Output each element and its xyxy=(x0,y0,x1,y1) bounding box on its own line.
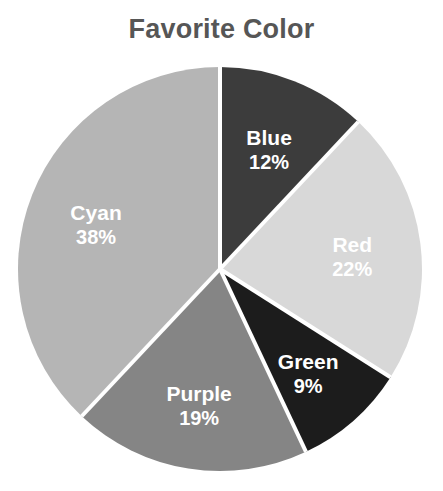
pie-slice-label-percent: 19% xyxy=(179,407,219,429)
pie-slice-label-name: Purple xyxy=(166,382,231,405)
pie-chart-figure: Favorite Color Blue12%Red22%Green9%Purpl… xyxy=(0,0,443,491)
pie-slice-label-name: Red xyxy=(332,233,372,256)
pie-chart-canvas: Blue12%Red22%Green9%Purple19%Cyan38% xyxy=(0,0,443,491)
pie-slice-label-name: Blue xyxy=(246,126,292,149)
pie-slice-label-name: Cyan xyxy=(70,201,121,224)
pie-slice-label-percent: 9% xyxy=(294,375,323,397)
pie-slice-label-percent: 12% xyxy=(249,151,289,173)
pie-slice-label-percent: 22% xyxy=(332,258,372,280)
pie-slice-label-name: Green xyxy=(278,350,339,373)
pie-slice-label-percent: 38% xyxy=(76,226,116,248)
